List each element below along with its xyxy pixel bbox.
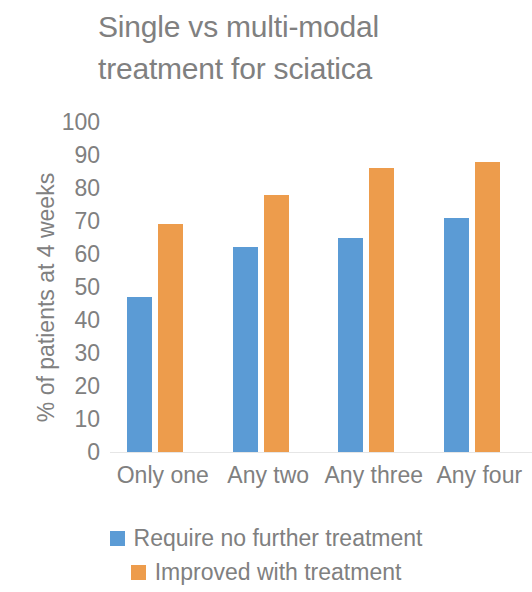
bar-group (110, 122, 216, 452)
plot-area (110, 122, 532, 452)
bar-chart: Single vs multi-modal treatment for scia… (0, 0, 532, 592)
legend-item[interactable]: Improved with treatment (0, 555, 532, 589)
x-axis-category-label: Any two (216, 460, 322, 490)
bar (264, 195, 289, 452)
bar-group (427, 122, 532, 452)
bar (158, 224, 183, 452)
bar (127, 297, 152, 452)
legend-item-inner: Improved with treatment (131, 559, 402, 585)
bar (444, 218, 469, 452)
y-axis-tick-label: 100 (40, 111, 100, 134)
legend-swatch-icon (110, 531, 125, 546)
legend-label: Improved with treatment (155, 559, 402, 585)
chart-title-text: Single vs multi-modal treatment for scia… (98, 10, 379, 85)
bar-group (216, 122, 322, 452)
legend-swatch-icon (131, 565, 146, 580)
legend-label: Require no further treatment (134, 525, 423, 551)
legend-item-inner: Require no further treatment (110, 525, 423, 551)
chart-legend: Require no further treatmentImproved wit… (0, 521, 532, 589)
bar (369, 168, 394, 452)
x-axis-category-labels: Only oneAny twoAny threeAny four (110, 460, 532, 500)
x-axis-category-label: Any four (427, 460, 532, 490)
x-axis-baseline (110, 452, 532, 453)
bar (475, 162, 500, 452)
legend-item[interactable]: Require no further treatment (0, 521, 532, 555)
x-axis-category-label: Any three (321, 460, 427, 490)
chart-title: Single vs multi-modal treatment for scia… (98, 6, 498, 90)
x-axis-category-label: Only one (110, 460, 216, 490)
bar (338, 238, 363, 453)
bar-group (321, 122, 427, 452)
y-axis-title: % of patients at 4 weeks (35, 148, 58, 448)
bar (233, 247, 258, 452)
